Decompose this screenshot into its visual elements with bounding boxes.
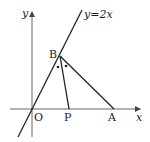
angle-mark-dot-2 xyxy=(65,65,68,68)
point-p-label: P xyxy=(64,111,72,124)
point-a-label: A xyxy=(107,111,117,124)
line-y-equals-2x xyxy=(18,10,82,137)
angle-mark-dot-1 xyxy=(57,66,60,69)
origin-label: O xyxy=(34,111,43,124)
coordinate-diagram: y y=2x B O P A x xyxy=(0,0,150,142)
point-b-label: B xyxy=(49,48,57,61)
y-axis-label: y xyxy=(21,7,29,20)
line-equation-label: y=2x xyxy=(83,8,113,21)
x-axis-label: x xyxy=(136,111,143,124)
